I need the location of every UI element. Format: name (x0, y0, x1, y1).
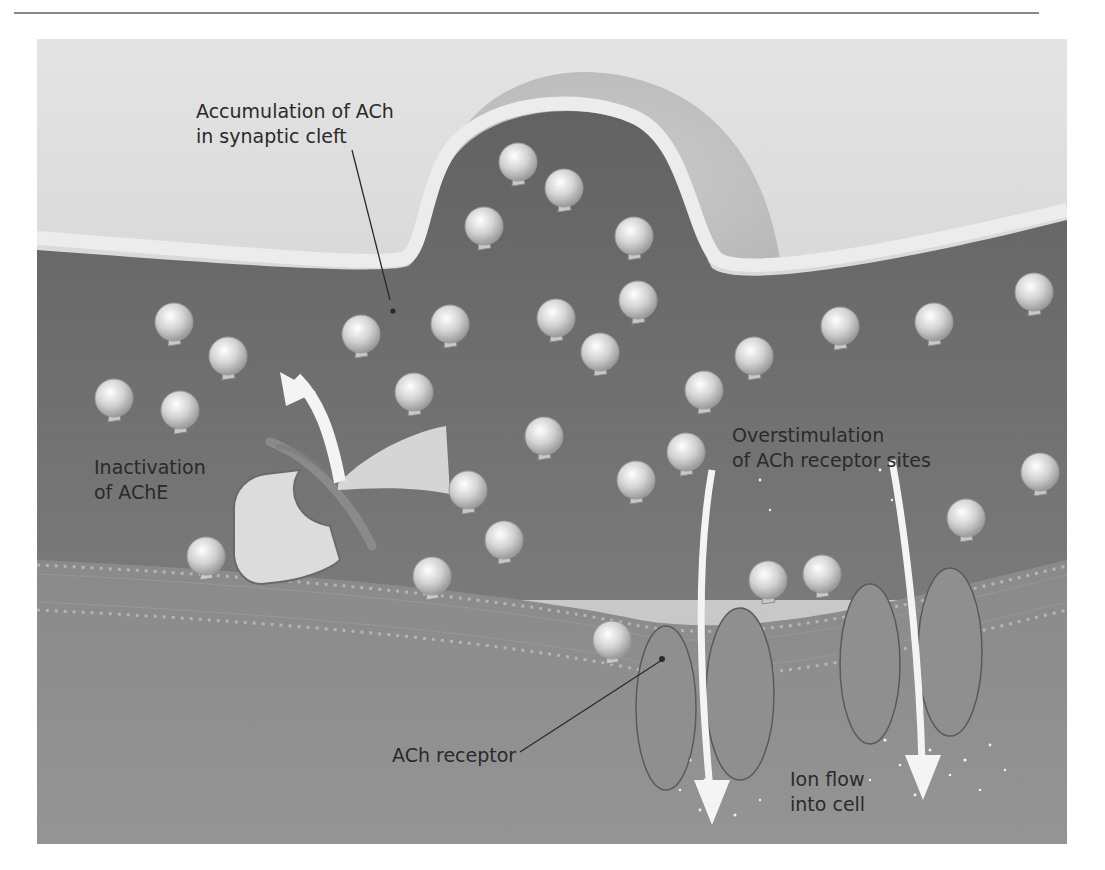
receptor-subunit (706, 608, 774, 780)
synapse-diagram-svg: Accumulation of ACh in synaptic cleft In… (37, 39, 1067, 844)
synapse-illustration: Accumulation of ACh in synaptic cleft In… (37, 39, 1067, 844)
receptor-subunit (636, 626, 696, 790)
leader-dot (390, 308, 395, 313)
leader-dot (659, 656, 665, 662)
receptor-subunit (840, 584, 900, 744)
receptor-subunit (918, 568, 982, 736)
top-rule (14, 12, 1039, 14)
label-ach-receptor: ACh receptor (392, 744, 516, 766)
